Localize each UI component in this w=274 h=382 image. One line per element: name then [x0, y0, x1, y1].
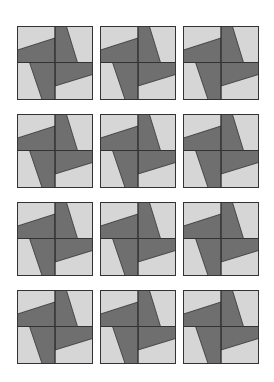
pinwheel-tile	[17, 202, 93, 276]
pinwheel-tile	[100, 26, 176, 100]
pinwheel-tile	[100, 114, 176, 188]
pinwheel-tile	[17, 114, 93, 188]
pinwheel-tile	[183, 26, 259, 100]
pinwheel-tile	[17, 26, 93, 100]
pinwheel-tile	[17, 290, 93, 364]
pinwheel-tile	[100, 202, 176, 276]
pinwheel-tile	[183, 202, 259, 276]
pinwheel-tile	[183, 290, 259, 364]
pinwheel-tile	[100, 290, 176, 364]
pinwheel-tile	[183, 114, 259, 188]
